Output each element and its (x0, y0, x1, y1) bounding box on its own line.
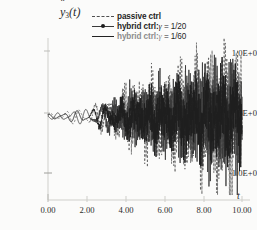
plot-canvas (0, 0, 257, 230)
x-tick-marks (48, 194, 242, 202)
data-series-layer (48, 38, 242, 195)
acceleration-time-history-figure: y3(t) passive ctrl hybrid ctrl:γ = 1/20 … (0, 0, 257, 230)
